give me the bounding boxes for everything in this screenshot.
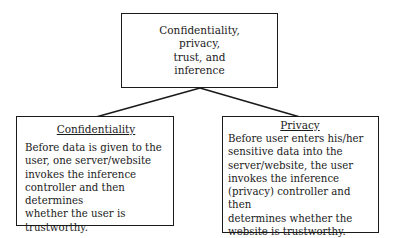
root-line-1: Confidentiality, [159,24,239,38]
connector-to-privacy [200,88,300,117]
root-line-3: trust, and [173,51,225,65]
privacy-description: Before user enters his/her sensitive dat… [228,132,372,238]
root-line-4: inference [174,64,224,78]
connector-to-confidentiality [96,88,200,117]
privacy-node: Privacy Before user enters his/her sensi… [222,116,379,233]
root-line-2: privacy, [179,37,220,51]
privacy-heading: Privacy [228,119,372,132]
confidentiality-node: Confidentiality Before data is given to … [16,116,174,226]
confidentiality-heading: Confidentiality [25,123,167,136]
root-node: Confidentiality, privacy, trust, and inf… [121,13,278,88]
confidentiality-description: Before data is given to the user, one se… [25,141,167,234]
